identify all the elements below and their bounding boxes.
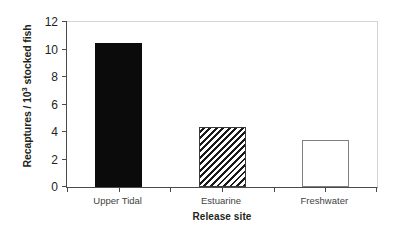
x-axis-tick bbox=[67, 187, 68, 192]
y-axis-title-prefix: Recaptures / 10 bbox=[21, 91, 33, 167]
y-axis-tick-label: 0 bbox=[51, 179, 58, 195]
y-axis-title-suffix: stocked fish bbox=[21, 24, 33, 87]
y-axis-title-superscript: 3 bbox=[20, 87, 29, 91]
x-axis-tick bbox=[376, 187, 377, 192]
x-axis-tick-minor bbox=[222, 187, 223, 192]
x-axis-tick-minor bbox=[325, 187, 326, 192]
bar-freshwater bbox=[302, 140, 349, 187]
x-axis-title: Release site bbox=[66, 211, 378, 222]
y-axis-tick-label: 4 bbox=[51, 124, 58, 140]
y-axis-tick-label: 6 bbox=[51, 97, 58, 113]
bar-chart-figure: Recaptures / 103 stocked fish 024681012 … bbox=[0, 0, 417, 241]
plot-area: 024681012 bbox=[66, 21, 378, 188]
x-axis-category-label: Estuarine bbox=[169, 194, 272, 208]
y-axis-tick-label: 2 bbox=[51, 152, 58, 168]
x-axis-category-label: Freshwater bbox=[273, 194, 376, 208]
bar-estuarine bbox=[199, 127, 246, 187]
y-axis-tick-label: 10 bbox=[45, 42, 58, 58]
y-axis-tick-label: 12 bbox=[45, 14, 58, 30]
x-axis-tick bbox=[274, 187, 275, 192]
y-axis-title: Recaptures / 103 stocked fish bbox=[18, 0, 36, 196]
x-axis-tick-minor bbox=[119, 187, 120, 192]
y-axis-tick-label: 8 bbox=[51, 69, 58, 85]
x-axis-category-labels: Upper TidalEstuarineFreshwater bbox=[66, 194, 378, 210]
x-axis-category-label: Upper Tidal bbox=[66, 194, 169, 208]
x-axis-tick bbox=[170, 187, 171, 192]
bar-group bbox=[67, 22, 377, 187]
bar-upper-tidal bbox=[95, 43, 142, 187]
